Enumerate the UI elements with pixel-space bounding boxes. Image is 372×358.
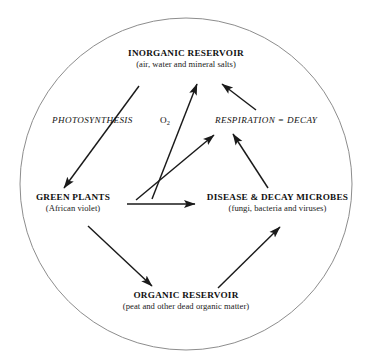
process-label-respiration-decay: RESPIRATION = DECAY — [215, 115, 317, 125]
node-organic-reservoir-subtitle: (peat and other dead organic matter) — [46, 301, 326, 311]
arrow-respiration-to-inorganic — [222, 84, 256, 110]
node-organic-reservoir: ORGANIC RESERVOIR (peat and other dead o… — [46, 290, 326, 311]
arrow-green-plants-to-respiration — [136, 135, 214, 200]
arrow-green-plants-to-organic — [88, 226, 152, 286]
node-inorganic-reservoir-title: INORGANIC RESERVOIR — [0, 48, 372, 59]
node-green-plants: GREEN PLANTS (African violet) — [8, 192, 138, 213]
arrow-microbes-to-respiration — [233, 134, 268, 188]
arrow-inorganic-to-green-plants — [64, 86, 139, 188]
molecule-label-oxygen-subscript: 2 — [167, 119, 170, 126]
node-disease-decay-microbes-subtitle: (fungi, bacteria and viruses) — [190, 203, 365, 213]
node-inorganic-reservoir: INORGANIC RESERVOIR (air, water and mine… — [0, 48, 372, 69]
node-organic-reservoir-title: ORGANIC RESERVOIR — [46, 290, 326, 301]
process-label-photosynthesis: PHOTOSYNTHESIS — [52, 115, 133, 125]
node-green-plants-subtitle: (African violet) — [8, 203, 138, 213]
arrow-organic-to-microbes — [218, 227, 280, 288]
node-disease-decay-microbes-title: DISEASE & DECAY MICROBES — [190, 192, 365, 203]
node-green-plants-title: GREEN PLANTS — [8, 192, 138, 203]
carbon-cycle-diagram: INORGANIC RESERVOIR (air, water and mine… — [0, 0, 372, 358]
molecule-label-oxygen: O2 — [160, 115, 170, 125]
node-inorganic-reservoir-subtitle: (air, water and mineral salts) — [0, 59, 372, 69]
node-disease-decay-microbes: DISEASE & DECAY MICROBES (fungi, bacteri… — [190, 192, 365, 213]
molecule-label-oxygen-symbol: O — [160, 115, 167, 125]
